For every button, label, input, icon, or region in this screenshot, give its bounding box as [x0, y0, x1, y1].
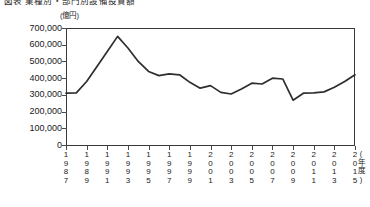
x-axis-tick	[87, 146, 88, 150]
x-axis-tick	[190, 146, 191, 150]
x-axis-tick	[169, 146, 170, 150]
y-axis-tick	[62, 128, 67, 129]
x-axis-tick-label: 1993	[122, 151, 133, 185]
x-axis-tick-label: 1989	[81, 151, 92, 185]
y-axis-tick-label: 100,000	[29, 124, 62, 133]
x-axis-tick-label: 1995	[143, 151, 154, 185]
x-axis-tick	[272, 146, 273, 150]
x-axis-tick-label: 1991	[102, 151, 113, 185]
y-axis-tick	[62, 78, 67, 79]
x-axis-tick	[231, 146, 232, 150]
y-axis-labels: 700,000600,000500,000400,000300,000200,0…	[0, 0, 64, 207]
x-axis-tick	[211, 146, 212, 150]
x-axis-tick-label: 2005	[246, 151, 257, 185]
x-axis-tick-label: 2001	[205, 151, 216, 185]
y-axis-tick	[62, 28, 67, 29]
y-axis-tick-label: 400,000	[29, 74, 62, 83]
x-axis-tick-label: 1999	[184, 151, 195, 185]
x-axis-tick-label: 2009	[288, 151, 299, 185]
x-axis-tick-label: 2007	[267, 151, 278, 185]
y-axis-tick-label: 700,000	[29, 24, 62, 33]
y-axis-tick	[62, 61, 67, 62]
x-axis-tick	[293, 146, 294, 150]
chart-figure: 図表 業種別・部門別設備投資額 (億円) 700,000600,000500,0…	[0, 0, 370, 207]
x-axis-tick	[314, 146, 315, 150]
y-axis-tick-label: 300,000	[29, 90, 62, 99]
y-axis-tick-label: 600,000	[29, 40, 62, 49]
y-axis-tick-label: 200,000	[29, 107, 62, 116]
x-axis-tick-label: 1997	[164, 151, 175, 185]
x-axis-tick-label: 2013	[329, 151, 340, 185]
x-axis-tick	[355, 146, 356, 150]
y-axis-tick	[62, 45, 67, 46]
x-axis-tick	[252, 146, 253, 150]
x-axis-name: (年度)	[355, 150, 367, 184]
y-axis-tick-label: 500,000	[29, 57, 62, 66]
x-axis-tick-label: 1987	[61, 151, 72, 185]
y-axis-tick	[62, 95, 67, 96]
plot-area	[66, 28, 355, 146]
x-axis-tick-label: 2003	[226, 151, 237, 185]
x-axis-tick	[149, 146, 150, 150]
x-axis-tick	[128, 146, 129, 150]
x-axis-tick	[66, 146, 67, 150]
x-axis-tick-label: 2011	[308, 151, 319, 185]
x-axis-tick	[107, 146, 108, 150]
x-axis-tick	[334, 146, 335, 150]
y-axis-tick	[62, 112, 67, 113]
